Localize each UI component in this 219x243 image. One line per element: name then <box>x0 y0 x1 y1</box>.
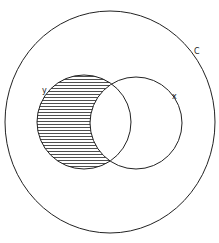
label-x: x <box>172 92 177 101</box>
label-y: y <box>42 86 47 95</box>
label-c: C <box>194 47 200 56</box>
venn-diagram: C y x <box>0 0 219 243</box>
